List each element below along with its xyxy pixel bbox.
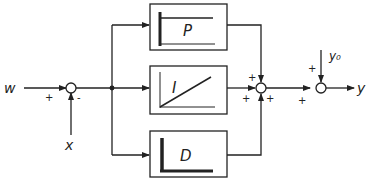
w-label: w [4, 80, 16, 96]
p-block-label: P [183, 22, 193, 40]
output-summing-junction [316, 83, 326, 93]
w-sign: + [45, 92, 53, 103]
pid-sign: + [298, 95, 306, 106]
d-block-label: D [180, 147, 192, 165]
y-label: y [356, 80, 366, 96]
pid-block-diagram: P I D w x y y₀ + - + + + + + [0, 0, 370, 182]
branch-node [110, 86, 114, 90]
d-sign: + [266, 93, 274, 104]
i-sign: + [242, 93, 250, 104]
x-label: x [64, 137, 74, 153]
x-sign: - [77, 92, 81, 103]
y0-sign: + [308, 63, 316, 74]
error-summing-junction [66, 83, 76, 93]
y0-label: y₀ [328, 49, 341, 63]
i-block-label: I [172, 79, 177, 97]
p-sign: + [248, 72, 256, 83]
i-ramp [160, 77, 211, 107]
pid-summing-junction [256, 83, 266, 93]
